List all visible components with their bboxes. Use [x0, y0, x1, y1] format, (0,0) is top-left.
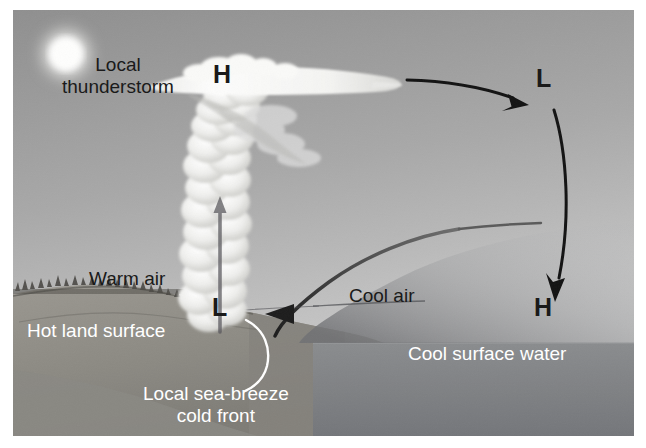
weather-diagram-figure: Local thunderstorm H L H L Warm air Hot … — [13, 10, 634, 436]
pressure-marker-surface-low: L — [212, 293, 227, 323]
label-cool-surface-water: Cool surface water — [408, 343, 566, 365]
label-cool-air: Cool air — [349, 285, 414, 307]
pressure-marker-upper-low: L — [536, 64, 551, 94]
pressure-marker-anvil-high: H — [213, 60, 231, 90]
label-cold-front: Local sea-breeze cold front — [143, 383, 289, 428]
label-hot-land-surface: Hot land surface — [27, 320, 165, 342]
label-local-thunderstorm: Local thunderstorm — [62, 54, 174, 99]
pressure-marker-sea-high: H — [534, 293, 552, 323]
label-warm-air: Warm air — [89, 268, 165, 290]
